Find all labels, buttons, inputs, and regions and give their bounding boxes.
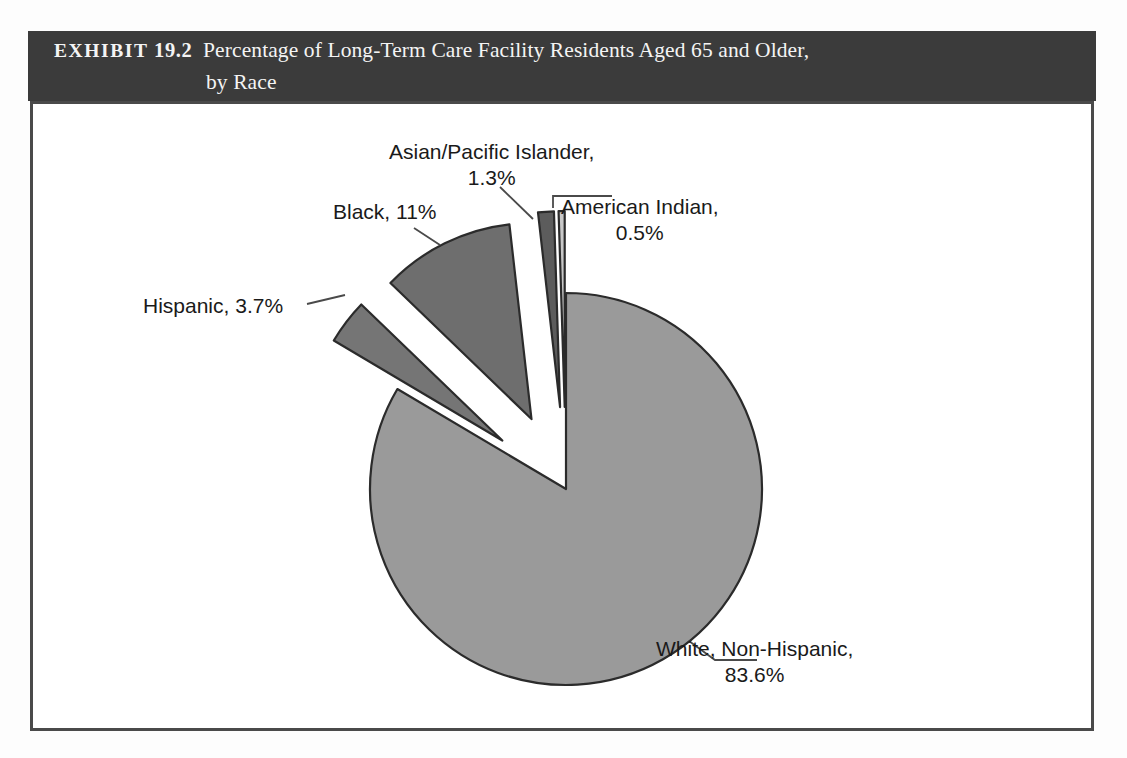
exhibit-caption-line-2: by Race [206, 70, 277, 94]
pie-label-white-line-2: 83.6% [656, 662, 853, 688]
pie-label-black: Black, 11% [333, 199, 437, 225]
pie-label-asian-line-2: 1.3% [389, 165, 594, 191]
exhibit-label: EXHIBIT [54, 40, 149, 61]
exhibit-figure: EXHIBIT 19.2 Percentage of Long-Term Car… [0, 0, 1127, 758]
pie-label-white-non-hispanic: White, Non-Hispanic, 83.6% [656, 636, 853, 687]
pie-label-asian-line-1: Asian/Pacific Islander, [389, 139, 594, 165]
pie-label-american-indian-line-2: 0.5% [561, 220, 719, 246]
exhibit-title-band: EXHIBIT 19.2 Percentage of Long-Term Car… [28, 31, 1096, 101]
pie-label-white-line-1: White, Non-Hispanic, [656, 636, 853, 662]
pie-label-american-indian-line-1: American Indian, [561, 194, 719, 220]
exhibit-number: 19.2 [154, 39, 192, 61]
exhibit-caption-line-1: Percentage of Long-Term Care Facility Re… [203, 38, 809, 62]
exhibit-title-line-2: by Race [206, 72, 277, 94]
exhibit-title-line-1: EXHIBIT 19.2 Percentage of Long-Term Car… [54, 40, 809, 62]
pie-label-hispanic-text: Hispanic, 3.7% [143, 294, 283, 317]
pie-label-american-indian: American Indian, 0.5% [561, 194, 719, 245]
pie-label-hispanic: Hispanic, 3.7% [143, 293, 283, 319]
pie-label-asian-pacific-islander: Asian/Pacific Islander, 1.3% [389, 139, 594, 190]
pie-label-black-text: Black, 11% [333, 200, 437, 223]
